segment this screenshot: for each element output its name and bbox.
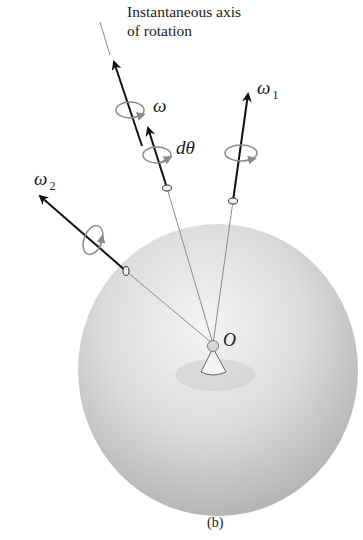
omega-symbol: ω xyxy=(153,95,166,116)
origin-symbol: O xyxy=(223,330,236,350)
omega1-label: ω1 xyxy=(257,77,278,99)
omega-vector xyxy=(114,62,144,146)
axis-title: Instantaneous axis of rotation xyxy=(127,2,241,40)
axis-title-line2: of rotation xyxy=(127,21,241,40)
instantaneous-axis-line xyxy=(100,22,110,55)
omega2-label: ω2 xyxy=(34,168,55,190)
omega-label: ω xyxy=(153,95,166,117)
omega1-subscript: 1 xyxy=(272,88,278,102)
origin-label: O xyxy=(223,330,236,351)
omega2-subscript: 2 xyxy=(49,179,55,193)
dtheta-label: dθ xyxy=(176,137,195,159)
diagram-canvas xyxy=(0,0,363,540)
axis-title-line1: Instantaneous axis xyxy=(127,2,241,21)
dtheta-symbol: dθ xyxy=(176,137,195,158)
omega2-symbol: ω xyxy=(34,168,47,189)
dtheta-vector xyxy=(143,128,172,191)
omega1-vector xyxy=(225,94,257,204)
figure-caption: (b) xyxy=(207,515,223,531)
omega1-symbol: ω xyxy=(257,77,270,98)
omega2-vector xyxy=(40,196,129,276)
